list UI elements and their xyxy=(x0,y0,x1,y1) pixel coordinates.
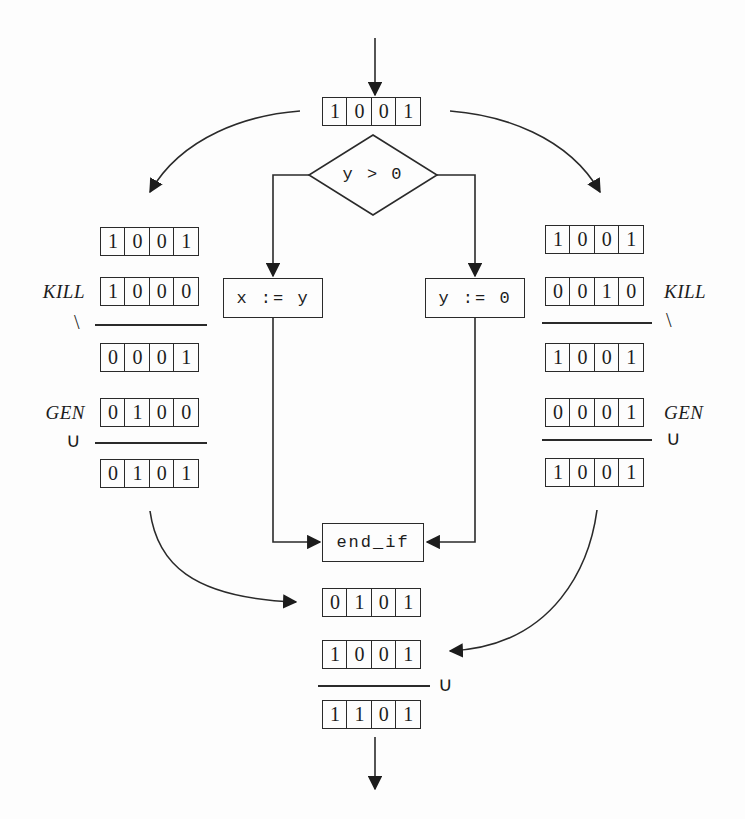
curve-right-to-join xyxy=(450,510,597,651)
bit-cell: 0 xyxy=(149,398,175,427)
bit-cell: 1 xyxy=(322,700,348,729)
bit-cell: 0 xyxy=(371,700,397,729)
left-gen-label: GEN xyxy=(23,402,85,424)
bit-cell: 1 xyxy=(618,343,644,372)
entry-vector: 1001 xyxy=(322,97,421,126)
bit-cell: 1 xyxy=(173,343,199,372)
right-gen-label: GEN xyxy=(664,402,726,424)
bit-cell: 0 xyxy=(346,640,372,669)
left-out-vector: 0101 xyxy=(100,459,199,488)
bit-cell: 1 xyxy=(594,277,620,306)
bit-cell: 1 xyxy=(100,227,126,256)
bit-cell: 0 xyxy=(594,458,620,487)
right-after-kill-vector: 1001 xyxy=(545,343,644,372)
join-out-vector: 1101 xyxy=(322,700,421,729)
left-gen-vector: 0100 xyxy=(100,398,199,427)
left-rule-2 xyxy=(95,442,207,444)
bit-cell: 1 xyxy=(618,458,644,487)
bit-cell: 1 xyxy=(395,97,421,126)
bit-cell: 0 xyxy=(569,458,595,487)
bit-cell: 0 xyxy=(173,398,199,427)
bit-cell: 0 xyxy=(149,343,175,372)
bit-cell: 1 xyxy=(346,588,372,617)
bit-cell: 1 xyxy=(395,588,421,617)
bit-cell: 0 xyxy=(322,588,348,617)
false-branch-line xyxy=(437,175,475,276)
right-union-operator: ∪ xyxy=(666,426,681,450)
left-after-kill-vector: 0001 xyxy=(100,343,199,372)
bit-cell: 1 xyxy=(100,277,126,306)
left-kill-label: KILL xyxy=(23,281,85,303)
curve-entry-to-right xyxy=(450,111,600,192)
dataflow-diagram: 1001 y > 0 x := y y := 0 1001 KILL 1000 … xyxy=(0,0,745,819)
bit-cell: 0 xyxy=(149,459,175,488)
left-difference-operator: \ xyxy=(74,311,80,334)
left-kill-vector: 1000 xyxy=(100,277,199,306)
right-rule-1 xyxy=(542,322,652,324)
bit-cell: 0 xyxy=(569,225,595,254)
left-in-vector: 1001 xyxy=(100,227,199,256)
bit-cell: 0 xyxy=(100,343,126,372)
bit-cell: 1 xyxy=(545,225,571,254)
join-union-operator: ∪ xyxy=(438,672,453,696)
bit-cell: 0 xyxy=(124,277,150,306)
join-left-in-vector: 0101 xyxy=(322,588,421,617)
right-in-vector: 1001 xyxy=(545,225,644,254)
join-right-in-vector: 1001 xyxy=(322,640,421,669)
bit-cell: 1 xyxy=(618,398,644,427)
right-out-vector: 1001 xyxy=(545,458,644,487)
bit-cell: 0 xyxy=(124,343,150,372)
bit-cell: 0 xyxy=(371,588,397,617)
condition-label: y > 0 xyxy=(318,165,428,184)
curve-left-to-join xyxy=(150,511,296,602)
true-branch-line xyxy=(273,175,309,276)
bit-cell: 1 xyxy=(545,343,571,372)
bit-cell: 1 xyxy=(124,459,150,488)
bit-cell: 0 xyxy=(371,640,397,669)
bit-cell: 1 xyxy=(545,458,571,487)
right-kill-label: KILL xyxy=(664,281,726,303)
right-rule-2 xyxy=(542,439,652,441)
bit-cell: 0 xyxy=(569,398,595,427)
bit-cell: 0 xyxy=(594,343,620,372)
bit-cell: 0 xyxy=(371,97,397,126)
bit-cell: 0 xyxy=(569,277,595,306)
right-kill-vector: 0010 xyxy=(545,277,644,306)
join-rule xyxy=(318,685,430,687)
bit-cell: 1 xyxy=(124,398,150,427)
bit-cell: 0 xyxy=(545,398,571,427)
bit-cell: 0 xyxy=(124,227,150,256)
bit-cell: 0 xyxy=(100,398,126,427)
bit-cell: 0 xyxy=(149,227,175,256)
bit-cell: 1 xyxy=(618,225,644,254)
left-union-operator: ∪ xyxy=(66,428,81,452)
bit-cell: 1 xyxy=(173,227,199,256)
bit-cell: 1 xyxy=(322,640,348,669)
bit-cell: 1 xyxy=(395,640,421,669)
join-box: end_if xyxy=(322,523,424,562)
bit-cell: 0 xyxy=(149,277,175,306)
bit-cell: 1 xyxy=(395,700,421,729)
bit-cell: 0 xyxy=(545,277,571,306)
bit-cell: 1 xyxy=(173,459,199,488)
bit-cell: 0 xyxy=(100,459,126,488)
statement-box-left: x := y xyxy=(223,278,323,318)
statement-box-right: y := 0 xyxy=(425,278,525,318)
right-difference-operator: \ xyxy=(666,309,672,332)
bit-cell: 0 xyxy=(569,343,595,372)
bit-cell: 0 xyxy=(618,277,644,306)
bit-cell: 0 xyxy=(594,225,620,254)
bit-cell: 1 xyxy=(346,700,372,729)
bit-cell: 0 xyxy=(594,398,620,427)
left-join-line xyxy=(273,318,320,542)
curve-entry-to-left xyxy=(150,111,300,192)
right-join-line xyxy=(427,318,475,542)
bit-cell: 1 xyxy=(322,97,348,126)
right-gen-vector: 0001 xyxy=(545,398,644,427)
bit-cell: 0 xyxy=(346,97,372,126)
left-rule-1 xyxy=(95,324,207,326)
bit-cell: 0 xyxy=(173,277,199,306)
